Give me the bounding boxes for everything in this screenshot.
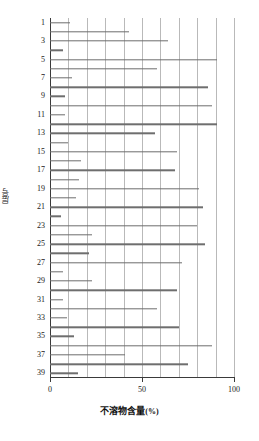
bar-layer-22: [50, 216, 61, 217]
bar-layer-10: [50, 105, 212, 106]
y-tick-label-9: 9: [41, 92, 45, 100]
x-tick-label-0: 0: [48, 385, 52, 395]
y-tick-label-7: 7: [41, 74, 45, 82]
bar-layer-2: [50, 31, 129, 32]
bar-layer-19: [50, 188, 199, 189]
bar-layer-33: [50, 317, 67, 318]
bar-layer-23: [50, 225, 197, 226]
plot-area: [50, 18, 234, 378]
x-tick-mark-0: [50, 378, 51, 382]
bar-layer-26: [50, 253, 89, 254]
y-tick-label-3: 3: [41, 37, 45, 45]
gridline-100: [234, 18, 235, 378]
y-tick-label-21: 21: [37, 203, 45, 211]
bar-layer-9: [50, 96, 65, 97]
bar-layer-30: [50, 290, 177, 291]
y-tick-label-15: 15: [37, 148, 45, 156]
bar-layer-25: [50, 243, 205, 244]
y-tick-label-39: 39: [37, 369, 45, 377]
y-tick-label-11: 11: [37, 111, 45, 119]
y-axis-tick-labels: 13579111315171921232527293133353739: [20, 18, 48, 378]
x-axis-title-text: 不溶物含量: [100, 406, 145, 416]
x-axis-title: 不溶物含量(%): [0, 404, 259, 417]
y-tick-label-5: 5: [41, 56, 45, 64]
x-tick-mark-50: [142, 378, 143, 382]
bar-layer-35: [50, 336, 74, 337]
bar-layer-4: [50, 50, 63, 51]
x-tick-label-50: 50: [138, 385, 146, 395]
bar-layer-14: [50, 142, 68, 143]
bar-layer-34: [50, 327, 179, 328]
bar-layer-31: [50, 299, 63, 300]
bar-layer-8: [50, 87, 208, 88]
insoluble-content-bar-chart: 层号 13579111315171921232527293133353739 0…: [0, 0, 259, 441]
y-tick-label-27: 27: [37, 259, 45, 267]
bar-layer-20: [50, 197, 76, 198]
bar-layer-29: [50, 280, 92, 281]
y-tick-label-17: 17: [37, 166, 45, 174]
y-tick-label-31: 31: [37, 296, 45, 304]
bar-layer-39: [50, 373, 78, 374]
y-tick-label-13: 13: [37, 129, 45, 137]
y-tick-label-29: 29: [37, 277, 45, 285]
y-tick-label-19: 19: [37, 185, 45, 193]
y-axis-title: 层号: [2, 188, 18, 204]
x-tick-label-100: 100: [228, 385, 240, 395]
bar-layer-38: [50, 363, 188, 364]
bar-layer-27: [50, 262, 182, 263]
bar-layer-17: [50, 170, 175, 171]
bar-layer-6: [50, 68, 157, 69]
bar-layer-1: [50, 22, 70, 23]
y-tick-label-33: 33: [37, 314, 45, 322]
y-tick-label-25: 25: [37, 240, 45, 248]
bar-layer-5: [50, 59, 217, 60]
y-tick-label-23: 23: [37, 222, 45, 230]
bar-layer-12: [50, 123, 217, 124]
bar-layer-32: [50, 308, 157, 309]
y-tick-label-1: 1: [41, 19, 45, 27]
x-axis-tick-labels: 050100: [0, 385, 259, 399]
x-tick-mark-100: [234, 378, 235, 382]
bar-layer-16: [50, 160, 81, 161]
bar-layer-7: [50, 77, 72, 78]
y-tick-label-35: 35: [37, 332, 45, 340]
y-tick-label-37: 37: [37, 351, 45, 359]
bar-layer-11: [50, 114, 65, 115]
bar-layer-15: [50, 151, 177, 152]
bar-layer-18: [50, 179, 79, 180]
bar-layer-21: [50, 207, 203, 208]
bar-layer-36: [50, 345, 212, 346]
bar-series: [50, 18, 234, 378]
bar-layer-13: [50, 133, 155, 134]
x-axis-unit: (%): [145, 407, 158, 416]
bar-layer-3: [50, 40, 168, 41]
bar-layer-24: [50, 234, 92, 235]
bar-layer-28: [50, 271, 63, 272]
bar-layer-37: [50, 354, 125, 355]
